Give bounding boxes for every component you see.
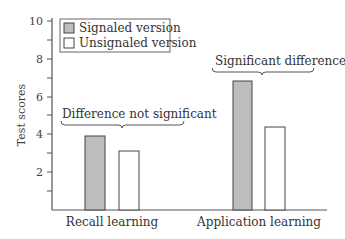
legend-swatch-signaled — [64, 23, 74, 33]
legend: Signaled version Unsignaled version — [60, 19, 197, 52]
bar-application-unsignaled — [265, 127, 285, 210]
y-axis-label: Test scores — [15, 83, 28, 146]
bar-chart: 2 4 6 8 10 Test scores Recall learning A… — [0, 0, 345, 239]
category-label-application: Application learning — [196, 215, 321, 229]
bar-recall-unsignaled — [119, 151, 139, 210]
annotation-not-significant: Difference not significant — [62, 107, 217, 121]
tick-label-8: 8 — [36, 53, 43, 66]
bar-application-signaled — [233, 81, 252, 210]
legend-label-signaled: Signaled version — [79, 21, 181, 35]
annotation-significant: Significant difference — [215, 54, 345, 68]
brace-significant — [212, 68, 314, 75]
tick-label-6: 6 — [36, 91, 43, 104]
tick-label-4: 4 — [36, 128, 43, 141]
category-label-recall: Recall learning — [66, 215, 159, 229]
legend-label-unsignaled: Unsignaled version — [79, 36, 197, 50]
tick-label-2: 2 — [36, 166, 43, 179]
tick-label-10: 10 — [29, 15, 43, 28]
legend-swatch-unsignaled — [64, 38, 74, 48]
y-ticks — [47, 21, 52, 191]
bar-recall-signaled — [85, 136, 105, 210]
brace-not-significant — [61, 121, 184, 128]
